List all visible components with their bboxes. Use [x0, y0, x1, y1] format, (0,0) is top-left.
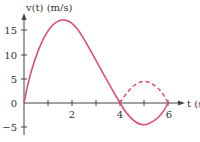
x-axis-title: t (s) — [187, 98, 200, 109]
x-tick-label-2: 2 — [69, 109, 75, 120]
y-tick-label-0: 0 — [11, 98, 17, 109]
abs-velocity-dashed-curve — [120, 81, 168, 103]
y-tick-label-5: 5 — [11, 74, 17, 85]
x-tick-label-4: 4 — [117, 109, 123, 120]
y-axis-arrow-icon — [22, 13, 27, 20]
velocity-chart: v(t) (m/s) t (s) 15 10 5 0 −5 2 4 6 — [0, 0, 200, 142]
y-tick-label-15: 15 — [4, 25, 17, 36]
y-axis-title: v(t) (m/s) — [25, 2, 73, 13]
x-tick-label-6: 6 — [166, 109, 172, 120]
y-tick-label-neg5: −5 — [2, 122, 17, 133]
y-tick-label-10: 10 — [4, 50, 17, 61]
velocity-curve — [24, 20, 168, 125]
x-axis-arrow-icon — [178, 101, 185, 106]
